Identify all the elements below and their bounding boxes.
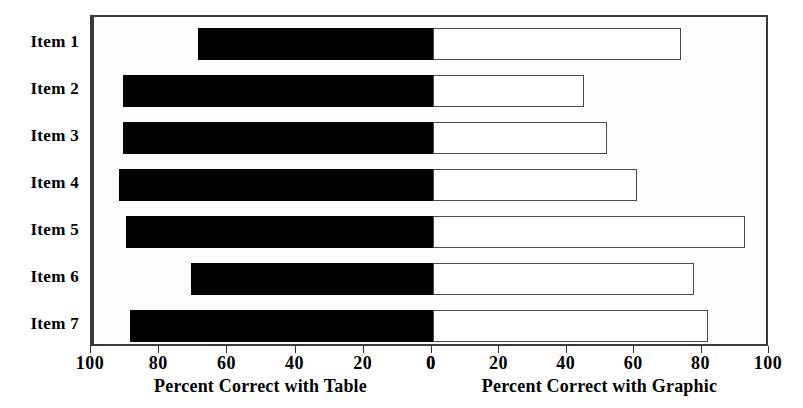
axis-tick-label: 20 xyxy=(489,353,508,374)
bar-graphic-4 xyxy=(433,169,637,201)
right-value-axis: Percent Correct with Graphic 02040608010… xyxy=(431,346,768,406)
axis-tick-label: 80 xyxy=(691,353,710,374)
bar-table-5 xyxy=(126,216,433,248)
category-label-1: Item 1 xyxy=(30,33,79,51)
bidirectional-bar-chart: Item 1Item 2Item 3Item 4Item 5Item 6Item… xyxy=(0,0,803,408)
category-label-5: Item 5 xyxy=(30,221,79,239)
category-label-6: Item 6 xyxy=(30,268,79,286)
axis-tick xyxy=(633,346,634,353)
bar-row xyxy=(92,263,766,295)
axis-tick-label: 100 xyxy=(754,353,783,374)
right-axis-title: Percent Correct with Graphic xyxy=(431,376,768,397)
category-label-4: Item 4 xyxy=(30,174,79,192)
bar-row xyxy=(92,122,766,154)
axis-tick-label: 40 xyxy=(285,353,304,374)
axis-tick xyxy=(701,346,702,353)
bar-graphic-1 xyxy=(433,28,681,60)
axis-tick-label: 60 xyxy=(624,353,643,374)
axis-tick-label: 80 xyxy=(149,353,168,374)
left-axis-title: Percent Correct with Table xyxy=(90,376,431,397)
category-axis-labels: Item 1Item 2Item 3Item 4Item 5Item 6Item… xyxy=(0,15,88,345)
bar-row xyxy=(92,169,766,201)
left-value-axis: Percent Correct with Table 100806040200 xyxy=(90,346,431,406)
axis-tick xyxy=(768,346,769,353)
axis-tick xyxy=(498,346,499,353)
bar-graphic-5 xyxy=(433,216,745,248)
bar-table-1 xyxy=(198,28,433,60)
bar-row xyxy=(92,310,766,342)
axis-tick xyxy=(90,346,91,353)
axis-tick xyxy=(363,346,364,353)
category-label-3: Item 3 xyxy=(30,127,79,145)
category-label-2: Item 2 xyxy=(30,80,79,98)
bar-graphic-2 xyxy=(433,75,584,107)
bar-row xyxy=(92,216,766,248)
bar-table-4 xyxy=(119,169,433,201)
bar-table-2 xyxy=(123,75,433,107)
bar-table-7 xyxy=(130,310,433,342)
bars-layer xyxy=(92,17,766,344)
axis-tick xyxy=(431,346,432,353)
axis-tick-label: 0 xyxy=(426,353,436,374)
axis-tick-label: 40 xyxy=(556,353,575,374)
bar-row xyxy=(92,75,766,107)
bar-table-3 xyxy=(123,122,433,154)
axis-tick-label: 100 xyxy=(76,353,105,374)
axis-tick xyxy=(158,346,159,353)
axis-tick xyxy=(226,346,227,353)
bar-graphic-6 xyxy=(433,263,694,295)
bar-table-6 xyxy=(191,263,433,295)
axis-tick xyxy=(295,346,296,353)
bar-graphic-3 xyxy=(433,122,607,154)
axis-tick-label: 20 xyxy=(353,353,372,374)
category-label-7: Item 7 xyxy=(30,315,79,333)
axis-tick-label: 60 xyxy=(217,353,236,374)
bar-row xyxy=(92,28,766,60)
axis-tick xyxy=(566,346,567,353)
plot-area xyxy=(90,15,768,346)
bar-graphic-7 xyxy=(433,310,708,342)
zero-baseline xyxy=(92,17,94,344)
